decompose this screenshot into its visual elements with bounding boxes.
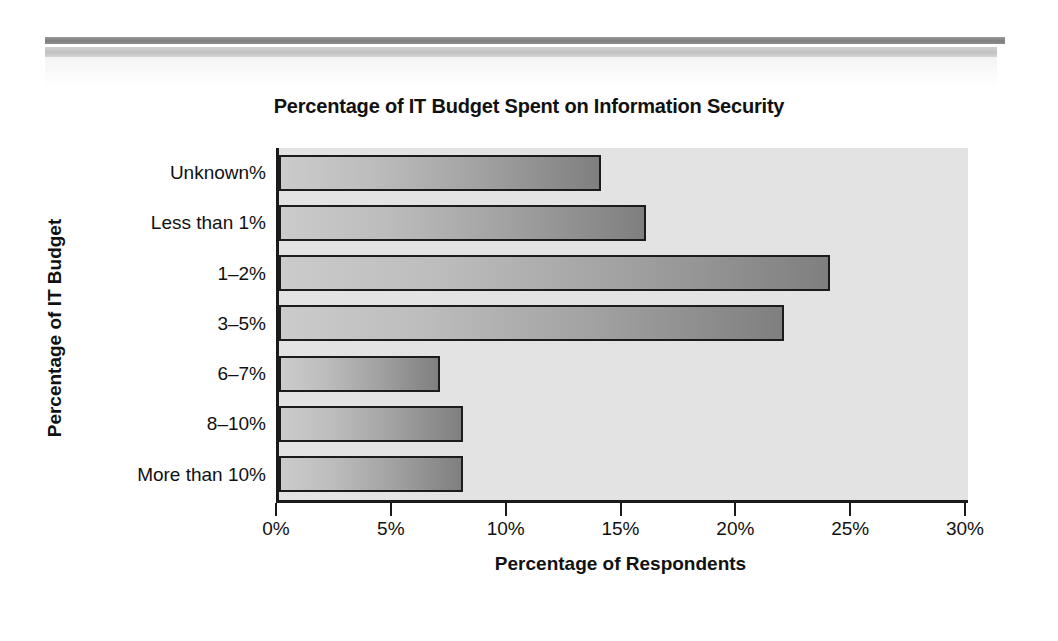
bar [279, 406, 463, 442]
x-axis-tick-mark [505, 503, 507, 516]
bar-row [279, 198, 968, 248]
x-axis-tick-label: 20% [695, 518, 775, 540]
y-axis-tick-label: 3–5% [70, 299, 266, 349]
bar [279, 356, 440, 392]
bar [279, 205, 646, 241]
y-axis-tick-label: More than 10% [70, 450, 266, 500]
y-axis-tick-label: 8–10% [70, 399, 266, 449]
x-axis-tick-label: 5% [351, 518, 431, 540]
x-axis-tick-mark [849, 503, 851, 516]
x-axis-tick-label: 10% [466, 518, 546, 540]
x-axis-tick-label: 30% [925, 518, 1005, 540]
bar [279, 155, 601, 191]
bar-row [279, 249, 968, 299]
x-axis-tick-mark [964, 503, 966, 516]
bar-chart-figure: Percentage of IT Budget Spent on Informa… [0, 0, 1058, 641]
x-axis-tick-mark [275, 503, 277, 516]
bar-row [279, 299, 968, 349]
bar [279, 255, 830, 291]
y-axis-title: Percentage of IT Budget [44, 178, 66, 478]
x-axis-tick-label: 0% [236, 518, 316, 540]
bar-row [279, 148, 968, 198]
y-axis-tick-label: 1–2% [70, 249, 266, 299]
x-axis-ticks: 0%5%10%15%20%25%30% [276, 503, 965, 549]
x-axis-tick-label: 15% [581, 518, 661, 540]
y-axis-tick-labels: Unknown%Less than 1%1–2%3–5%6–7%8–10%Mor… [70, 148, 266, 500]
bar [279, 456, 463, 492]
x-axis-tick-mark [390, 503, 392, 516]
bar-row [279, 399, 968, 449]
bar-row [279, 349, 968, 399]
x-axis-tick-label: 25% [810, 518, 890, 540]
bar-row [279, 450, 968, 500]
bar [279, 305, 784, 341]
x-axis-tick-mark [620, 503, 622, 516]
x-axis-tick-mark [734, 503, 736, 516]
chart-title: Percentage of IT Budget Spent on Informa… [0, 95, 1058, 118]
page-background: Percentage of IT Budget Spent on Informa… [0, 0, 1058, 641]
y-axis-tick-label: Less than 1% [70, 198, 266, 248]
plot-area [276, 148, 968, 503]
x-axis-title: Percentage of Respondents [276, 553, 965, 575]
y-axis-tick-label: Unknown% [70, 148, 266, 198]
y-axis-tick-label: 6–7% [70, 349, 266, 399]
